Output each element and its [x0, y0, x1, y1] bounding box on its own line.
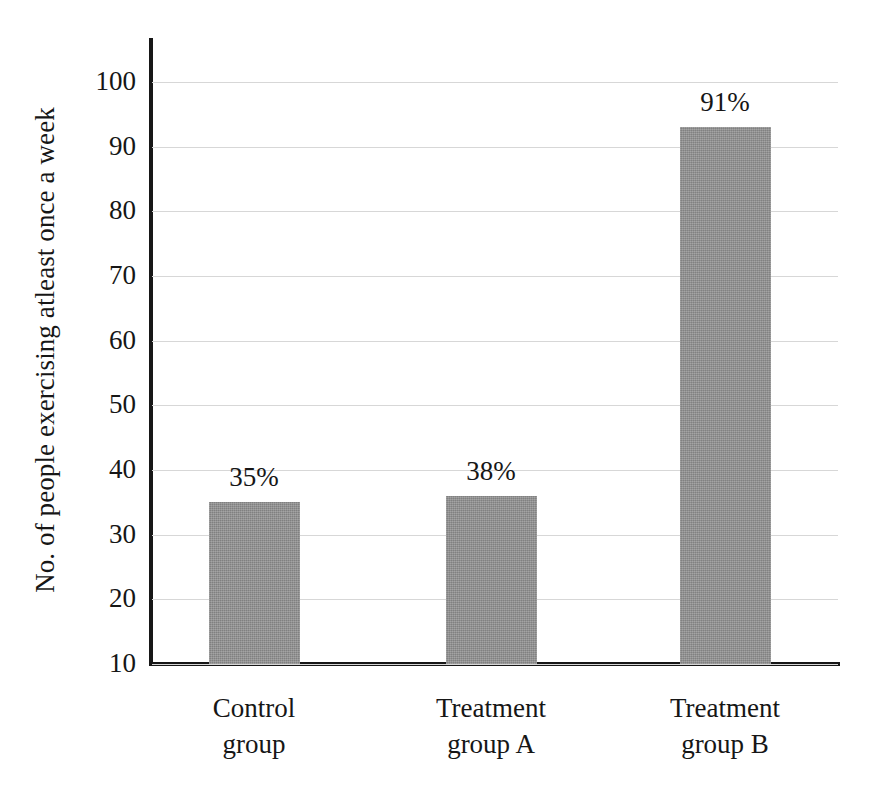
gridline [152, 82, 838, 83]
bar-value-label: 38% [421, 458, 561, 485]
y-axis-tick-label: 70 [74, 262, 136, 289]
x-axis-category-label: Treatmentgroup B [595, 690, 855, 763]
bar [680, 127, 771, 664]
bar-value-label: 35% [184, 464, 324, 491]
y-axis-tick-label: 20 [74, 585, 136, 612]
y-axis-tick-label: 40 [74, 456, 136, 483]
plot-area [152, 82, 838, 664]
y-axis-title: No. of people exercising atleast once a … [22, 0, 68, 700]
category-label-line2: group A [361, 726, 621, 762]
y-axis-tick-label: 50 [74, 391, 136, 418]
x-axis-category-label: Controlgroup [124, 690, 384, 763]
y-axis-tick-label: 30 [74, 521, 136, 548]
gridline [152, 664, 838, 665]
x-axis-category-label: Treatmentgroup A [361, 690, 621, 763]
bar-chart-figure: No. of people exercising atleast once a … [0, 0, 870, 791]
category-label-line1: Treatment [361, 690, 621, 726]
category-label-line1: Treatment [595, 690, 855, 726]
bar [209, 502, 300, 664]
category-label-line2: group B [595, 726, 855, 762]
y-axis-tick-label: 10 [74, 650, 136, 677]
y-axis-tick-label: 90 [74, 133, 136, 160]
category-label-line1: Control [124, 690, 384, 726]
category-label-line2: group [124, 726, 384, 762]
y-axis-tick-label: 80 [74, 197, 136, 224]
y-axis-tick-label: 100 [74, 68, 136, 95]
bar-value-label: 91% [655, 89, 795, 116]
y-axis-tick-label: 60 [74, 327, 136, 354]
bar [446, 496, 537, 664]
